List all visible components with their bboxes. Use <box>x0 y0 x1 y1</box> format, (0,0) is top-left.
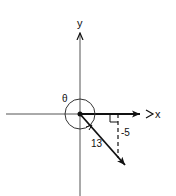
angle-label: θ <box>62 93 68 104</box>
coordinate-diagram: y x θ -5 13 <box>0 0 176 196</box>
right-angle-marker <box>110 114 118 122</box>
x-axis-arrowhead-icon <box>146 110 153 118</box>
vector-length-label: 13 <box>91 138 103 149</box>
x-axis-label: x <box>155 108 161 120</box>
vertical-leg-label: -5 <box>121 127 130 138</box>
y-axis-label: y <box>77 17 83 29</box>
